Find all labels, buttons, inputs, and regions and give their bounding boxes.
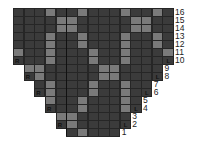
right-side-mark: R (47, 106, 51, 112)
right-side-mark: R (36, 90, 40, 96)
row-number-label: 10 (175, 56, 184, 65)
right-side-mark: R (26, 74, 30, 80)
row-number-label: 2 (132, 120, 137, 129)
chart-cell (77, 128, 88, 137)
knitting-chart: 161514131211RL109RL87RL65RL43RL21 (0, 0, 197, 147)
row-number-label: 1 (122, 128, 127, 137)
center-divider-line (66, 8, 67, 136)
right-side-mark: R (58, 122, 62, 128)
chart-cell (98, 128, 109, 137)
row-number-label: 4 (143, 104, 148, 113)
row-number-label: 6 (154, 88, 159, 97)
chart-cell (66, 128, 77, 137)
right-side-mark: R (15, 58, 19, 64)
chart-cell (109, 128, 120, 137)
row-number-label: 8 (164, 72, 169, 81)
chart-cell (88, 128, 99, 137)
